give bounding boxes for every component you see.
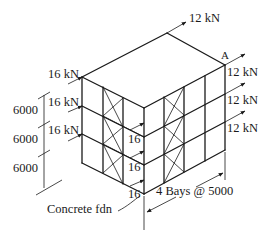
right-load-label-3: 12 kN <box>227 122 258 135</box>
left-load-label-2: 16 kN <box>48 96 79 109</box>
left-load-label-3: 16 kN <box>48 124 79 137</box>
bays-label: 4 Bays @ 5000 <box>156 185 233 198</box>
frame-drawing <box>0 0 275 237</box>
load-arrows <box>68 22 245 186</box>
story-height-label-1: 6000 <box>13 104 38 117</box>
right-load-label-1: 12 kN <box>227 66 258 79</box>
right-face-frame <box>144 65 225 194</box>
front-load-label-3: 16 <box>128 188 141 201</box>
story-height-label-3: 6000 <box>13 162 38 175</box>
left-load-label-1: 16 kN <box>48 68 79 81</box>
front-load-label-1: 16 <box>128 133 141 146</box>
top-load-label: 12 kN <box>189 12 220 25</box>
foundation-label: Concrete fdn <box>47 203 112 216</box>
right-load-label-2: 12 kN <box>227 94 258 107</box>
story-height-label-2: 6000 <box>13 133 38 146</box>
corner-a-label: A <box>221 50 229 61</box>
front-load-label-2: 16 <box>128 161 141 174</box>
